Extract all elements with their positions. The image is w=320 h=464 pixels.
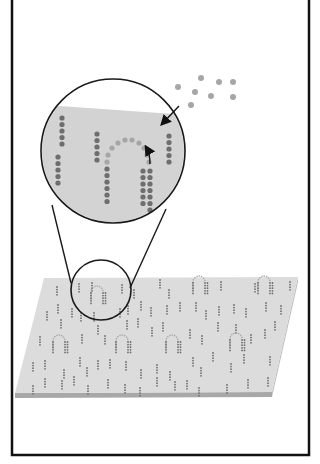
diagram-figure [0, 0, 320, 464]
free-particles [175, 75, 236, 108]
diagram-canvas [0, 0, 320, 464]
magnified-view [30, 79, 200, 240]
